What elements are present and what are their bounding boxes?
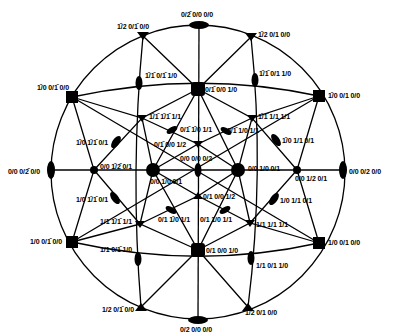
pole-label-c-ul-ov: 0/1̄ 1̄/0 1/1 (180, 126, 212, 134)
pole-label-c-lr-ov: 0/1 1/0 1/1 (200, 216, 232, 224)
pole-center-top (191, 82, 205, 96)
pole-ov-lr (267, 191, 281, 206)
pole-label-c-top-tri: 0/1̄ 0/0 1/2 (154, 141, 186, 149)
pole-bottom (188, 316, 208, 324)
pole-ur-tri (247, 115, 257, 122)
pole-label-b-ov-r: 1/1 0/1 1/0 (256, 262, 288, 270)
pole-b-ov-r (248, 251, 255, 265)
pole-label-bl-tri: 1/2 0/1̄ 0/0 (102, 306, 134, 314)
pole-t-ov-r (252, 73, 259, 87)
pole-label-bl-sq: 1/0 0/1̄ 0/0 (30, 238, 62, 246)
pole-label-ov-ul: 1̄/0 1̄/1̄ 0/1 (76, 139, 108, 147)
pole-label-ll-tri: 1/1 1̄/1̄ 1/1 (100, 218, 132, 226)
pole-br-sq (313, 237, 325, 249)
pole-label-mid-left-dot: 0/0 1̄/2̄ 0/1 (100, 163, 132, 171)
pole-right (339, 161, 347, 179)
pole-label-ov-lr: 1/0 1/1 0/1 (280, 197, 312, 205)
pole-label-center-bot-sq: 0/1 0/0 1/0 (206, 247, 238, 255)
pole-tl-sq (66, 91, 78, 103)
pole-label-ul-tri: 1̄/1̄ 1̄/1̄ 1/1 (149, 113, 181, 121)
pole-center-bottom (191, 243, 205, 257)
pole-label-c-ll-ov: 0/1 1̄/0 1/1 (158, 216, 190, 224)
pole-ov-ll (108, 190, 122, 205)
pole-label-left: 0/0 0/2̄ 0/0 (8, 168, 40, 176)
pole-label-lr-tri: 1/1 1/1 1/1 (256, 221, 288, 229)
pole-tr-sq (313, 90, 325, 102)
pole-label-c-left-big: 0/0 1̄/0 0/1 (150, 178, 182, 186)
pole-label-ur-tri: 1̄/1̄ 1/1 1/1 (258, 113, 290, 121)
pole-left (47, 161, 55, 179)
pole-label-br-sq: 1/0 0/1 0/0 (328, 239, 360, 247)
pole-label-b-ov-l: 1/1 0/1̄ 1/0 (100, 246, 132, 254)
pole-label-mid-right-dot: 0/0 1/2 0/1 (295, 175, 327, 183)
pole-label-right: 0/0 0/2 0/0 (349, 168, 381, 176)
pole-center (195, 163, 202, 177)
pole-bl-sq (66, 236, 78, 248)
pole-top (189, 21, 209, 29)
pole-mid-left (90, 166, 98, 174)
poles (47, 21, 347, 324)
pole-mid-right (293, 166, 301, 174)
pole-label-tr-tri: 1̄/2 0/1 0/0 (258, 31, 290, 39)
pole-label-c-right-big: 0/0 1/0 0/1 (248, 165, 280, 173)
pole-label-bottom: 0/2 0/0 0/0 (180, 326, 212, 334)
pole-label-tl-tri: 1̄/2 0/1̄ 0/0 (117, 23, 149, 31)
pole-label-ov-ur: 1̄/0 1/1 0/1 (282, 137, 314, 145)
pole-label-ov-ll: 1/0 1̄/1̄ 0/1 (76, 196, 108, 204)
pole-label-center-top-sq: 0/1̄ 0/0 1/0 (205, 86, 237, 94)
stereographic-projection-diagram (0, 0, 397, 336)
pole-label-tl-sq: 1̄/0 0/1̄ 0/0 (37, 84, 69, 92)
arc-bl-c (141, 250, 248, 307)
pole-bl-tri (135, 303, 147, 311)
pole-label-t-ov-l: 1̄/1̄ 0/1̄ 1/0 (145, 72, 177, 80)
pole-label-t-ov-r: 1̄/1̄ 0/1 1/0 (259, 70, 291, 78)
pole-t-ov-l (136, 76, 143, 90)
pole-label-top: 0/2̄ 0/0 0/0 (181, 11, 213, 19)
pole-label-c-bot-tri: 0/1 0/0 1/2 (203, 193, 235, 201)
pole-center-right (231, 163, 245, 177)
pole-tl-tri (137, 32, 149, 40)
arc-tl-c (143, 36, 251, 89)
pole-center-left (146, 163, 160, 177)
pole-label-center-ov: 0/0 0/0 0/2 (180, 155, 212, 163)
pole-label-tr-sq: 1̄/0 0/1 0/0 (328, 92, 360, 100)
pole-label-br-tri: 1/2 0/1 0/0 (245, 309, 277, 317)
pole-b-ov-l (135, 252, 142, 266)
pole-label-c-ur-ov: 0/1̄ 1/0 1/1 (227, 127, 259, 135)
pole-ov-ul (109, 134, 123, 149)
arc-m3 (94, 118, 153, 224)
